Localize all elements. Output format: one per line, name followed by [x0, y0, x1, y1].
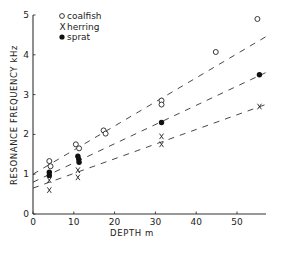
- axes: [33, 15, 266, 214]
- fit-lines: [33, 37, 266, 188]
- legend-sprat-marker: [59, 34, 64, 39]
- coalfish-point: [48, 164, 53, 169]
- x-tick-label: 30: [150, 217, 162, 227]
- legend-coalfish-label: coalfish: [67, 11, 102, 21]
- herring-point: [160, 134, 164, 140]
- data-points: [47, 16, 263, 192]
- herring-point: [76, 175, 80, 181]
- legend-herring-label: herring: [67, 22, 99, 32]
- ticks: 01020304050012345: [23, 10, 243, 227]
- y-tick-label: 5: [23, 10, 29, 20]
- legend-herring-marker: X: [60, 22, 66, 32]
- sprat-point: [47, 173, 52, 178]
- x-tick-label: 0: [30, 217, 36, 227]
- coalfish-fit-line: [33, 37, 266, 174]
- x-tick-label: 10: [68, 217, 80, 227]
- legend: coalfish X herring sprat: [59, 11, 101, 42]
- legend-sprat-label: sprat: [67, 32, 91, 42]
- coalfish-point: [77, 146, 82, 151]
- coalfish-point: [213, 50, 218, 55]
- y-tick-label: 0: [23, 209, 29, 219]
- sprat-fit-line: [33, 73, 266, 182]
- coalfish-point: [47, 159, 52, 164]
- coalfish-point: [255, 16, 260, 21]
- herring-point: [47, 187, 51, 193]
- legend-coalfish-marker: [60, 14, 65, 19]
- y-tick-label: 3: [23, 90, 29, 100]
- sprat-point: [257, 72, 262, 77]
- y-axis-label: RESONANCE FREQUENCY kHz: [9, 45, 19, 185]
- y-tick-label: 2: [23, 129, 29, 139]
- coalfish-point: [103, 131, 108, 136]
- x-tick-label: 20: [109, 217, 121, 227]
- sprat-point: [76, 160, 81, 165]
- scatter-chart: 01020304050012345 DEPTH m RESONANCE FREQ…: [0, 0, 287, 255]
- herring-point: [76, 167, 80, 173]
- sprat-point: [159, 120, 164, 125]
- y-tick-label: 4: [23, 50, 29, 60]
- x-tick-label: 40: [190, 217, 202, 227]
- herring-fit-line: [33, 105, 266, 189]
- x-tick-label: 50: [231, 217, 243, 227]
- y-tick-label: 1: [23, 169, 29, 179]
- coalfish-point: [159, 102, 164, 107]
- x-axis-label: DEPTH m: [110, 228, 154, 238]
